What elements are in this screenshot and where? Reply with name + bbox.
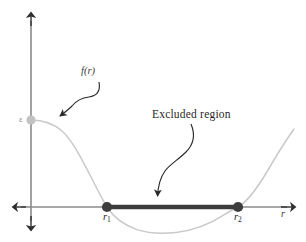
function-curve-fr <box>31 120 294 233</box>
function-curve-group <box>31 120 294 233</box>
excluded-region-group <box>102 202 243 212</box>
curve-label-fr: f(r) <box>81 66 95 77</box>
epsilon-marker-dot <box>26 115 35 124</box>
fr-annotation-arrow <box>60 82 99 116</box>
figure-svg <box>0 0 306 242</box>
x-axis-label: r <box>281 209 285 219</box>
root-label-r1-sub: 1 <box>107 215 111 224</box>
root-label-r1: r1 <box>103 212 111 224</box>
root-label-r2-sub: 2 <box>238 215 242 224</box>
root-label-r2: r2 <box>234 212 242 224</box>
figure-canvas: ε f(r) Excluded region r1 r2 r <box>0 0 306 242</box>
axis-group <box>15 15 293 228</box>
excluded-annotation-arrow <box>158 124 194 196</box>
excluded-region-label: Excluded region <box>152 109 231 121</box>
epsilon-label: ε <box>19 115 23 124</box>
